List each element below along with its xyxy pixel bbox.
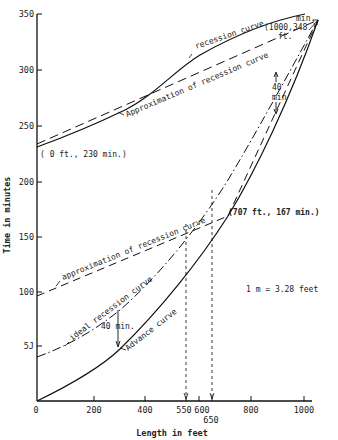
- svg-text:600: 600: [194, 405, 209, 415]
- svg-text:550: 550: [176, 405, 191, 415]
- conversion-note: 1 m = 3.28 feet: [246, 285, 318, 294]
- svg-text:650: 650: [203, 415, 218, 425]
- recession-curve: [37, 14, 305, 147]
- label-recession-leader: [189, 54, 192, 58]
- x-tick-labels: 200 400 550 600 650 800 1000: [86, 405, 314, 425]
- x-axis-title: Length in feet: [136, 428, 208, 438]
- chart: 350 300 250 200 150 100 5J 0 200 400 550…: [0, 0, 338, 440]
- svg-text:800: 800: [243, 405, 258, 415]
- point-end-ft: ft.: [278, 32, 292, 41]
- svg-text:250: 250: [19, 121, 34, 131]
- svg-text:0: 0: [33, 405, 38, 415]
- svg-text:200: 200: [19, 177, 34, 187]
- gap-top-label-b: min: [272, 93, 287, 102]
- svg-text:150: 150: [19, 232, 34, 242]
- y-tick-labels: 350 300 250 200 150 100 5J 0: [19, 9, 39, 415]
- point-end-min: min.: [296, 14, 315, 23]
- gap-low-label: 40 min.: [101, 322, 135, 331]
- gap-top-label-a: 40: [272, 83, 282, 92]
- svg-text:5J: 5J: [24, 341, 34, 351]
- svg-text:300: 300: [19, 65, 34, 75]
- label-approx-low: approximation of recession curve: [60, 216, 206, 282]
- label-recession: recession curve: [194, 19, 265, 51]
- svg-text:100: 100: [19, 287, 34, 297]
- point-mid-label: (707 ft., 167 min.): [228, 207, 320, 217]
- svg-text:400: 400: [137, 405, 152, 415]
- svg-text:200: 200: [86, 405, 101, 415]
- x-ticks: [94, 396, 304, 401]
- svg-text:350: 350: [19, 9, 34, 19]
- point-start-label: ( 0 ft., 230 min.): [40, 150, 127, 159]
- y-axis-title: Time in minutes: [2, 177, 12, 254]
- label-approx-low-leader: [56, 281, 60, 286]
- svg-text:1000: 1000: [294, 405, 314, 415]
- point-end-val: (1000,348 ): [264, 23, 317, 32]
- ideal-recession-curve: [37, 20, 318, 357]
- label-approx-top: Approximation of recession curve: [124, 50, 270, 119]
